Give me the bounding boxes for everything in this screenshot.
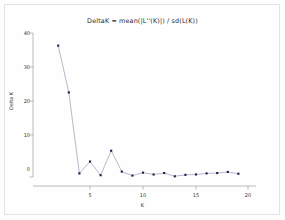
data-point [57, 45, 59, 47]
x-axis-ticks [90, 186, 248, 190]
data-point [206, 172, 208, 174]
data-point [184, 174, 186, 176]
y-axis-ticks [30, 33, 34, 177]
data-point [68, 91, 70, 93]
data-point [237, 173, 239, 175]
series-line [58, 46, 238, 177]
data-point [131, 175, 133, 177]
data-point [163, 172, 165, 174]
data-point [174, 175, 176, 177]
plot-area [0, 0, 285, 220]
data-point [195, 173, 197, 175]
data-point [142, 172, 144, 174]
data-point [110, 150, 112, 152]
data-point [216, 172, 218, 174]
data-point [121, 171, 123, 173]
series-markers [57, 45, 239, 178]
data-point [89, 160, 91, 162]
delta-k-chart-figure: DeltaK = mean(|L''(K)|) / sd(L(K)) Delta… [0, 0, 285, 220]
data-point [153, 173, 155, 175]
data-point [227, 171, 229, 173]
data-point [100, 174, 102, 176]
data-point [78, 172, 80, 174]
